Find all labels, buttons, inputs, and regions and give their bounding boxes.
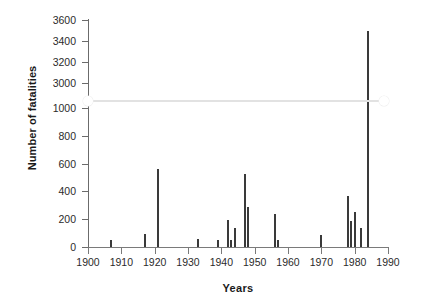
bar-1933 (197, 239, 199, 247)
bar-1948 (247, 207, 249, 247)
bar-1907 (110, 240, 112, 247)
y-tick-label-3600: 3600 (53, 15, 76, 26)
x-tick-1910 (121, 248, 122, 254)
y-tick-3000 (82, 83, 88, 84)
x-tick-1990 (388, 248, 389, 254)
bar-1980 (354, 212, 356, 247)
axis-break-marker-right-icon (379, 96, 389, 106)
x-tick-1940 (221, 248, 222, 254)
y-tick-3400 (82, 41, 88, 42)
x-tick-1970 (321, 248, 322, 254)
y-tick-label-200: 200 (58, 214, 76, 225)
bar-1984 (367, 31, 369, 248)
y-tick-3200 (82, 62, 88, 63)
y-tick-label-1000: 1000 (53, 103, 76, 114)
x-tick-1960 (288, 248, 289, 254)
y-tick-400 (82, 191, 88, 192)
y-axis-title: Number of fatalities (26, 38, 38, 198)
x-axis-title: Years (88, 282, 388, 294)
bar-1942 (227, 220, 229, 247)
y-tick-800 (82, 136, 88, 137)
bar-1947 (244, 174, 246, 247)
bar-1970 (320, 235, 322, 247)
y-tick-label-3200: 3200 (53, 57, 76, 68)
y-tick-label-800: 800 (58, 131, 76, 142)
y-tick-600 (82, 164, 88, 165)
axis-break-line (90, 100, 384, 102)
x-tick-1950 (255, 248, 256, 254)
y-tick-label-3400: 3400 (53, 36, 76, 47)
bar-1921 (157, 169, 159, 247)
bar-1943 (230, 240, 232, 247)
bar-1944 (234, 228, 236, 247)
y-tick-200 (82, 219, 88, 220)
x-axis-line (88, 247, 389, 248)
axis-break-marker-left-icon (83, 96, 93, 106)
y-tick-label-0: 0 (70, 242, 76, 253)
y-axis-line (88, 19, 89, 248)
y-tick-label-400: 400 (58, 186, 76, 197)
x-tick-1900 (88, 248, 89, 254)
fatalities-bar-chart: Number of fatalities Years 0200400600800… (0, 0, 422, 305)
y-tick-3600 (82, 20, 88, 21)
y-tick-1000 (82, 108, 88, 109)
bar-1957 (277, 240, 279, 247)
y-tick-label-3000: 3000 (53, 78, 76, 89)
x-tick-1930 (188, 248, 189, 254)
bar-1979 (350, 221, 352, 247)
y-tick-label-600: 600 (58, 159, 76, 170)
bar-1982 (360, 228, 362, 247)
bar-1939 (217, 240, 219, 247)
x-tick-1980 (355, 248, 356, 254)
x-tick-label-1990: 1990 (368, 257, 408, 268)
bar-1956 (274, 214, 276, 247)
bar-1917 (144, 234, 146, 247)
bar-1978 (347, 196, 349, 247)
x-tick-1920 (155, 248, 156, 254)
